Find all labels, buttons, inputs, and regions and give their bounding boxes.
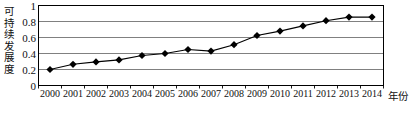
x-axis-tick-label: 2000 — [40, 88, 60, 99]
x-axis-tick-label: 2005 — [155, 88, 175, 99]
x-axis-tick-label: 2001 — [63, 88, 83, 99]
x-axis-tick-label: 2003 — [109, 88, 129, 99]
x-axis-tick-label: 2010 — [270, 88, 290, 99]
x-axis-tick-labels: 2000200120022003200420052006200720082009… — [0, 0, 412, 113]
x-axis-tick-label: 2004 — [132, 88, 152, 99]
x-axis-tick-label: 2009 — [247, 88, 267, 99]
x-axis-title: 年份 — [388, 88, 408, 103]
x-axis-tick-label: 2006 — [178, 88, 198, 99]
x-axis-tick-label: 2002 — [86, 88, 106, 99]
x-axis-tick-label: 2012 — [316, 88, 336, 99]
sustainable-development-line-chart: 可持续发展度 00.20.40.60.81 200020012002200320… — [0, 0, 412, 113]
x-axis-tick-label: 2011 — [293, 88, 313, 99]
x-axis-tick-label: 2014 — [362, 88, 382, 99]
x-axis-tick-label: 2008 — [224, 88, 244, 99]
x-axis-tick-label: 2007 — [201, 88, 221, 99]
x-axis-tick-label: 2013 — [339, 88, 359, 99]
